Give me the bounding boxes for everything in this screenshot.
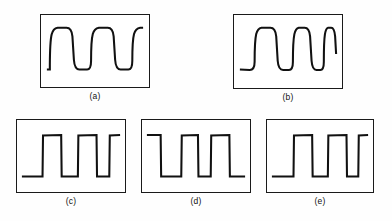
- waveform-panel-c: [16, 119, 126, 193]
- waveform-trace-c: [22, 135, 120, 176]
- waveform-panel-e: [266, 119, 374, 193]
- waveform-svg-e: [267, 120, 373, 192]
- panel-label-b: (b): [233, 92, 343, 102]
- waveform-trace-b: [240, 28, 336, 70]
- waveform-panel-b: [233, 14, 343, 89]
- waveform-trace-e: [272, 135, 368, 176]
- panel-label-d: (d): [141, 196, 251, 206]
- waveform-panel-d: [141, 119, 251, 193]
- figure-container: (a) (b) (c) (d) (e): [0, 0, 392, 221]
- waveform-svg-b: [234, 15, 342, 88]
- panel-label-a: (a): [40, 91, 150, 101]
- waveform-svg-a: [41, 15, 149, 87]
- waveform-svg-d: [142, 120, 250, 192]
- panel-label-c: (c): [16, 196, 126, 206]
- waveform-trace-d: [147, 135, 245, 176]
- waveform-panel-a: [40, 14, 150, 88]
- waveform-svg-c: [17, 120, 125, 192]
- panel-label-e: (e): [266, 196, 374, 206]
- waveform-trace-a: [47, 28, 143, 70]
